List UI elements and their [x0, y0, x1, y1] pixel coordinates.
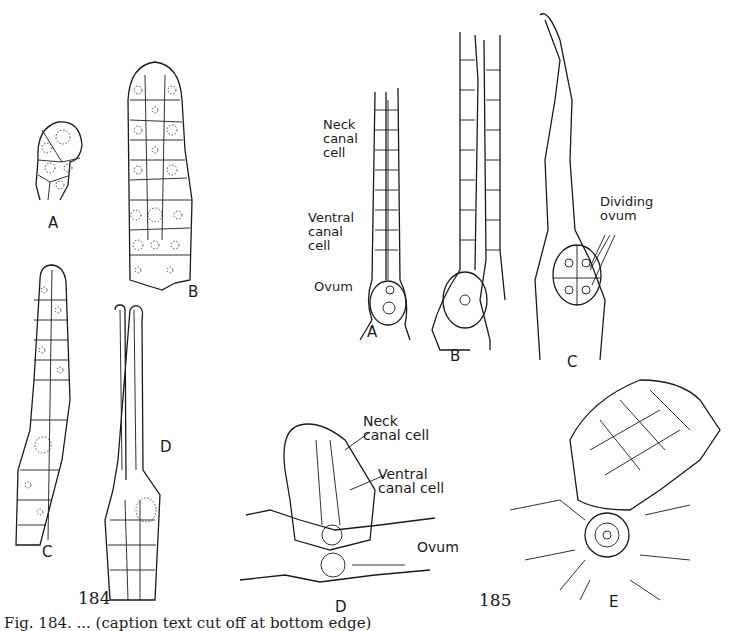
- label-line: Dividing: [600, 195, 653, 209]
- label-line: Ventral: [308, 211, 354, 225]
- label-line: canal: [323, 132, 358, 146]
- fig185a-ovum-label: Ovum: [314, 280, 353, 294]
- fig185d-ovum-label: Ovum: [417, 540, 459, 554]
- fig185-panel-e-letter: E: [609, 593, 618, 611]
- fig185a-ventral-canal-cell-label: Ventral canal cell: [308, 211, 354, 253]
- label-line: Neck: [323, 118, 358, 132]
- fig185-panel-c-letter: C: [567, 353, 577, 371]
- figure-plate: A B C D 184 Neck canal cell Ventral cana…: [0, 0, 739, 631]
- figure-number-184: 184: [78, 588, 110, 608]
- figure-number-185: 185: [479, 590, 511, 610]
- label-line: canal cell: [363, 428, 429, 442]
- fig185-b-drawing: [432, 32, 505, 350]
- label-line: canal cell: [378, 481, 444, 495]
- label-line: Neck: [363, 414, 429, 428]
- fig185-panel-a-letter: A: [367, 323, 377, 341]
- fig184-panel-b-letter: B: [188, 283, 198, 301]
- label-line: canal: [308, 225, 354, 239]
- illustration-drawing: [0, 0, 739, 631]
- fig184-c-drawing: [16, 265, 70, 545]
- fig185d-ventral-canal-cell-label: Ventral canal cell: [378, 467, 444, 495]
- fig184-panel-c-letter: C: [42, 543, 52, 561]
- label-line: Ventral: [378, 467, 444, 481]
- fig184-a-drawing: [36, 122, 82, 200]
- fig185a-neck-canal-cell-label: Neck canal cell: [323, 118, 358, 160]
- fig185-c-drawing: [535, 14, 615, 360]
- label-line: ovum: [600, 209, 653, 223]
- fig185-e-drawing: [510, 380, 720, 600]
- label-line: cell: [308, 239, 354, 253]
- fig185c-dividing-ovum-label: Dividing ovum: [600, 195, 653, 223]
- fig184-panel-a-letter: A: [48, 214, 58, 232]
- fig185-a-drawing: [360, 88, 410, 340]
- fig184-panel-d-letter: D: [160, 438, 172, 456]
- fig184-d-drawing: [105, 305, 160, 600]
- fig185-d-drawing: [240, 424, 435, 582]
- figure-caption-cropped: Fig. 184. ... (caption text cut off at b…: [4, 614, 739, 631]
- fig185-panel-b-letter: B: [450, 347, 460, 365]
- fig184-b-drawing: [128, 62, 192, 290]
- fig185d-neck-canal-cell-label: Neck canal cell: [363, 414, 429, 442]
- label-line: cell: [323, 146, 358, 160]
